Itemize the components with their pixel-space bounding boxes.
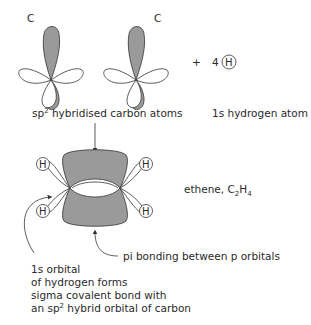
sigma-note-line4-suffix: hybrid orbital of carbon bbox=[64, 302, 191, 314]
sigma-note-line4-prefix: an sp bbox=[31, 302, 60, 314]
sp2-carbon-right-icon bbox=[104, 27, 169, 110]
hydrogen-count: 4 bbox=[212, 56, 219, 69]
pi-pointer-arrow-icon bbox=[95, 232, 118, 256]
hydrogen-symbol: H bbox=[225, 56, 233, 69]
ethene-label: ethene, C2H4 bbox=[184, 183, 252, 196]
sigma-note-line4: an sp2 hybrid orbital of carbon bbox=[31, 302, 191, 315]
sp2-carbon-left-icon bbox=[19, 27, 84, 110]
ethene-sub2: 4 bbox=[247, 190, 251, 198]
ethene-h-bottom-right: H bbox=[142, 205, 150, 218]
ethene-h-top-left: H bbox=[39, 158, 47, 171]
sigma-note-line1: 1s orbital bbox=[31, 263, 80, 276]
plus-sign: + bbox=[192, 56, 201, 69]
ethene-molecule-icon bbox=[46, 150, 144, 227]
sp2-caption-prefix: sp bbox=[32, 107, 44, 119]
ethene-h-bottom-left: H bbox=[39, 205, 47, 218]
sigma-note-line3: sigma covalent bond with bbox=[31, 289, 166, 302]
hydrogen-caption: 1s hydrogen atom bbox=[212, 107, 308, 120]
pi-bond-label: pi bonding between p orbitals bbox=[123, 250, 280, 263]
carbon-right-label: C bbox=[154, 12, 161, 25]
sp2-caption: sp2 hybridised carbon atoms bbox=[32, 107, 183, 120]
sp2-caption-suffix: hybridised carbon atoms bbox=[49, 107, 183, 119]
sigma-note-line2: of hydrogen forms bbox=[31, 276, 128, 289]
ethene-h-top-right: H bbox=[142, 158, 150, 171]
ethene-label-prefix: ethene, C bbox=[184, 183, 235, 195]
carbon-left-label: C bbox=[27, 12, 34, 25]
